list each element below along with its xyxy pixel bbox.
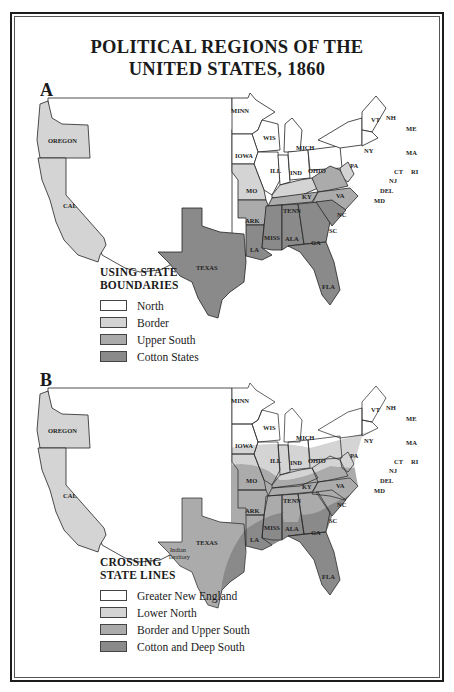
svg-text:CT: CT: [394, 168, 404, 175]
svg-text:NC: NC: [337, 501, 347, 508]
svg-text:PA: PA: [350, 162, 358, 169]
svg-text:ILL: ILL: [270, 457, 282, 464]
svg-text:ME: ME: [406, 415, 416, 422]
svg-text:MD: MD: [374, 487, 385, 494]
svg-text:DEL: DEL: [380, 187, 394, 194]
svg-text:MICH: MICH: [296, 144, 314, 151]
svg-text:MD: MD: [374, 197, 385, 204]
svg-text:VT: VT: [371, 406, 381, 413]
svg-text:IND: IND: [290, 459, 302, 466]
svg-text:LA: LA: [250, 536, 259, 543]
svg-text:MICH: MICH: [296, 434, 314, 441]
state-massachusetts: [362, 130, 378, 146]
svg-text:MO: MO: [246, 187, 257, 194]
svg-text:NC: NC: [337, 211, 347, 218]
svg-text:KY: KY: [302, 193, 312, 200]
svg-text:ARK: ARK: [245, 217, 259, 224]
svg-text:MISS: MISS: [264, 234, 280, 241]
svg-text:SC: SC: [329, 517, 338, 524]
svg-text:MINN: MINN: [231, 107, 249, 114]
svg-text:CAL: CAL: [63, 202, 77, 209]
panel-b-legend: CROSSING STATE LINES Greater New England…: [100, 556, 250, 655]
swatch-greater-new-england: [100, 590, 127, 601]
svg-text:VA: VA: [336, 482, 345, 489]
svg-text:ME: ME: [406, 125, 416, 132]
svg-text:OREGON: OREGON: [48, 427, 77, 434]
svg-text:OREGON: OREGON: [48, 137, 77, 144]
svg-text:ARK: ARK: [245, 507, 259, 514]
svg-text:OHIO: OHIO: [308, 167, 326, 174]
svg-text:WIS: WIS: [263, 134, 276, 141]
svg-text:NJ: NJ: [389, 467, 398, 474]
svg-text:FLA: FLA: [322, 573, 335, 580]
svg-text:MA: MA: [406, 149, 417, 156]
svg-text:IOWA: IOWA: [235, 442, 253, 449]
svg-text:NY: NY: [364, 147, 374, 154]
svg-text:Indian: Indian: [170, 546, 186, 553]
svg-text:RI: RI: [411, 458, 419, 465]
svg-text:NY: NY: [364, 437, 374, 444]
svg-text:MINN: MINN: [231, 397, 249, 404]
svg-text:OHIO: OHIO: [308, 457, 326, 464]
svg-text:NJ: NJ: [389, 177, 398, 184]
svg-text:ILL: ILL: [270, 167, 282, 174]
svg-text:TEXAS: TEXAS: [196, 539, 218, 546]
legend-b-border-upper-south: Border and Upper South: [100, 621, 250, 638]
svg-text:KY: KY: [302, 483, 312, 490]
state-new-england: [362, 96, 386, 132]
svg-text:IND: IND: [290, 169, 302, 176]
svg-text:LA: LA: [250, 246, 259, 253]
svg-text:ALA: ALA: [285, 525, 299, 532]
svg-text:RI: RI: [411, 168, 419, 175]
legend-b-cotton-deep-south: Cotton and Deep South: [100, 638, 250, 655]
svg-text:TEXAS: TEXAS: [196, 264, 218, 271]
legend-a-title: USING STATE BOUNDARIES: [100, 266, 199, 292]
state-new-york: [318, 118, 362, 148]
svg-text:IOWA: IOWA: [235, 152, 253, 159]
svg-text:PA: PA: [350, 452, 358, 459]
svg-text:GA: GA: [311, 529, 321, 536]
svg-text:TENN: TENN: [283, 497, 301, 504]
svg-text:NH: NH: [386, 404, 396, 411]
svg-text:SC: SC: [329, 227, 338, 234]
swatch-border-upper-south: [100, 624, 127, 635]
svg-text:DEL: DEL: [380, 477, 394, 484]
svg-text:MO: MO: [246, 477, 257, 484]
svg-text:ALA: ALA: [285, 235, 299, 242]
svg-text:MISS: MISS: [264, 524, 280, 531]
svg-text:VT: VT: [371, 116, 381, 123]
legend-b-greater-new-england: Greater New England: [100, 587, 250, 604]
svg-text:CT: CT: [394, 458, 404, 465]
legend-b-lower-north: Lower North: [100, 604, 250, 621]
svg-text:GA: GA: [311, 239, 321, 246]
svg-text:FLA: FLA: [322, 283, 335, 290]
svg-text:MA: MA: [406, 439, 417, 446]
svg-text:TENN: TENN: [283, 207, 301, 214]
svg-text:WIS: WIS: [263, 424, 276, 431]
svg-text:NH: NH: [386, 114, 396, 121]
svg-text:CAL: CAL: [63, 492, 77, 499]
svg-text:VA: VA: [336, 192, 345, 199]
swatch-lower-north: [100, 607, 127, 618]
swatch-cotton-deep-south: [100, 641, 127, 652]
legend-b-title: CROSSING STATE LINES: [100, 556, 250, 582]
